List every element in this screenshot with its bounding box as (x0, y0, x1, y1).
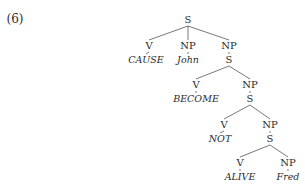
tree-leaf-word: John (177, 55, 199, 65)
tree-node-np: NP (242, 80, 257, 90)
tree-branch (224, 105, 250, 119)
tree-edges (0, 0, 305, 189)
tree-leaf-word: Fred (277, 172, 300, 182)
tree-node-s: S (185, 15, 192, 25)
tree-leaf-word: ALIVE (225, 172, 256, 182)
tree-node-v: V (220, 120, 227, 130)
tree-branch (229, 66, 250, 79)
tree-leaf-word: NOT (209, 134, 231, 144)
tree-node-s: S (247, 94, 254, 104)
tree-leaf-word: BECOME (173, 94, 219, 104)
tree-node-s: S (267, 134, 274, 144)
tree-branch (149, 26, 188, 40)
tree-node-s: S (226, 55, 233, 65)
syntax-tree-figure: (6) SVCAUSENPJohnNPSVBECOMENPSVNOTNPSVAL… (0, 0, 305, 189)
tree-branch (240, 145, 270, 157)
example-number: (6) (7, 13, 24, 25)
tree-branch (270, 145, 288, 157)
tree-node-v: V (192, 80, 199, 90)
tree-node-v: V (236, 158, 243, 168)
tree-branch (188, 26, 229, 40)
tree-leaf-word: CAUSE (128, 55, 164, 65)
tree-branch (196, 66, 229, 79)
tree-node-np: NP (221, 41, 236, 51)
tree-node-np: NP (180, 41, 195, 51)
tree-branch (250, 105, 270, 119)
tree-node-np: NP (280, 158, 295, 168)
tree-node-np: NP (262, 120, 277, 130)
tree-node-v: V (145, 41, 152, 51)
